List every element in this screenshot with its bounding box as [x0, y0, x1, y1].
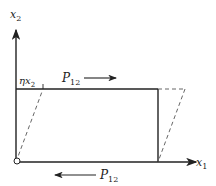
force-bottom-label: P12: [99, 168, 118, 184]
origin-point-icon: [14, 158, 20, 164]
shear-offset-label: ηx2: [19, 75, 35, 89]
sheared-right-edge: [158, 89, 185, 162]
sheared-left-edge: [16, 89, 43, 162]
x2-axis-label: x2: [10, 8, 21, 23]
shear-diagram: x2 x1 ηx2 P12 P12: [0, 0, 216, 186]
x1-axis-label: x1: [196, 156, 207, 171]
force-top-label: P12: [61, 71, 80, 87]
